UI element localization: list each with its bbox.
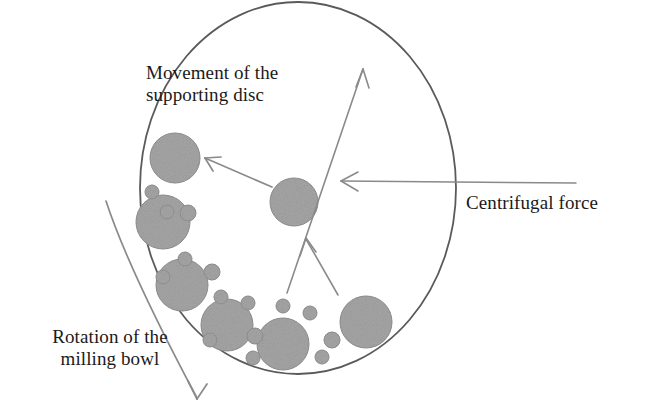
label-movement-of-supporting-disc: Movement of the supporting disc <box>146 62 278 107</box>
grinding-ball-small <box>324 332 340 348</box>
grinding-ball-small <box>241 296 255 310</box>
grinding-ball-center <box>270 178 318 226</box>
grinding-ball-small <box>156 270 170 284</box>
grinding-ball <box>156 259 208 311</box>
grinding-ball-small <box>145 185 159 199</box>
supporting-disc-arrow <box>205 157 272 187</box>
diagram-canvas: Movement of the supporting disc Centrifu… <box>0 0 645 417</box>
grinding-ball <box>136 195 190 249</box>
grinding-ball-small <box>276 299 290 313</box>
grinding-ball-small <box>247 328 263 344</box>
grinding-ball-small <box>204 264 220 280</box>
grinding-ball-small <box>315 350 329 364</box>
label-rotation-of-milling-bowl: Rotation of the milling bowl <box>30 326 190 371</box>
grinding-ball-small <box>246 351 260 365</box>
grinding-ball-small <box>160 205 174 219</box>
grinding-ball-small <box>178 252 192 266</box>
grinding-ball <box>257 318 309 370</box>
grinding-ball <box>150 133 200 183</box>
centrifugal-force-arrow <box>341 172 576 191</box>
grinding-ball-small <box>214 290 228 304</box>
label-centrifugal-force: Centrifugal force <box>466 192 598 214</box>
grinding-ball-small <box>303 306 317 320</box>
grinding-ball-small <box>180 205 196 221</box>
grinding-ball <box>340 296 392 348</box>
grinding-ball-small <box>203 333 217 347</box>
